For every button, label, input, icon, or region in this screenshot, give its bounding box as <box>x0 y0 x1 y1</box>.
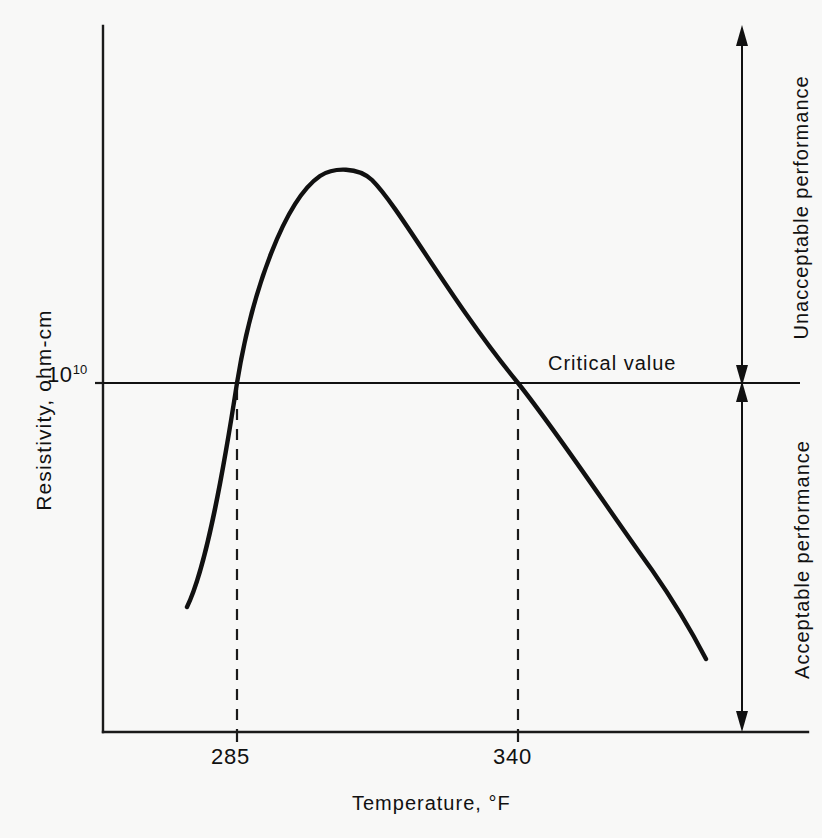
acceptable-range-arrow-head-bottom <box>736 711 748 732</box>
y-axis-tick-label-base: 10 <box>47 362 73 387</box>
acceptable-performance-label: Acceptable performance <box>791 435 814 685</box>
y-axis-label: Resistivity, ohm-cm <box>32 300 56 520</box>
x-axis-tick-label-285: 285 <box>211 744 250 770</box>
figure-canvas: Resistivity, ohm-cm 1010 285 340 Tempera… <box>0 0 822 838</box>
x-axis-label: Temperature, °F <box>352 792 511 815</box>
x-axis-tick-label-340: 340 <box>493 744 532 770</box>
y-axis-tick-label-1010: 1010 <box>47 362 88 388</box>
critical-value-label: Critical value <box>548 352 676 375</box>
resistivity-curve <box>187 170 706 659</box>
unacceptable-performance-label: Unacceptable performance <box>790 80 813 340</box>
chart-plot-area <box>0 0 822 838</box>
y-axis-tick-label-exponent: 10 <box>73 362 88 377</box>
acceptable-range-arrow-head-top <box>736 381 748 402</box>
unacceptable-range-arrow-head-top <box>736 25 748 46</box>
